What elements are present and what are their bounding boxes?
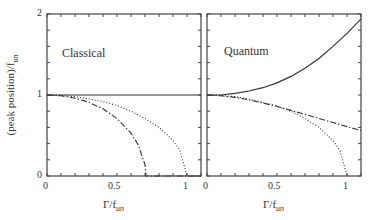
series-dotted xyxy=(207,95,347,176)
y-axis-label: (peak position)/fun xyxy=(4,54,19,135)
plot-frame xyxy=(207,14,361,176)
panel-title-classical: Classical xyxy=(62,46,105,61)
x-axis-label-left: Γ/fun xyxy=(103,198,124,213)
x-tick-left-0: 0 xyxy=(43,180,48,191)
x-tick-left-05: 0.5 xyxy=(108,180,121,191)
y-tick-1: 1 xyxy=(37,88,42,99)
y-tick-0: 0 xyxy=(37,169,42,180)
x-tick-right-0: 0 xyxy=(203,180,208,191)
y-tick-2: 2 xyxy=(37,7,42,18)
series-dash-dot xyxy=(47,95,201,176)
x-tick-left-1: 1 xyxy=(183,180,188,191)
panel-title-quantum: Quantum xyxy=(224,44,269,59)
x-axis-label-right: Γ/fun xyxy=(263,198,284,213)
chart-canvas xyxy=(0,0,378,220)
series-dotted xyxy=(47,95,201,176)
panel-quantum xyxy=(207,14,361,176)
panel-classical xyxy=(47,14,201,176)
x-tick-right-05: 0.5 xyxy=(268,180,281,191)
series-dash-dot xyxy=(207,95,361,131)
x-tick-right-1: 1 xyxy=(343,180,348,191)
